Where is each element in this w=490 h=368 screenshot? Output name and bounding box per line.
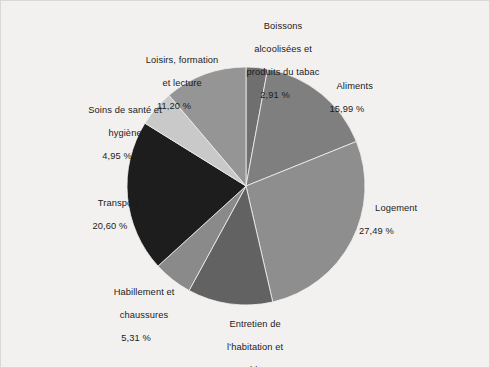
slice-label-habillement-line1: Habillement et (114, 287, 175, 297)
slice-percent-logement: 27,49 % (359, 226, 455, 238)
chart-area: Boissons alcoolisées et produits du taba… (1, 1, 489, 367)
slice-label-transport-line1: Transport (98, 198, 138, 208)
slice-label-boissons-line1: Boissons (264, 21, 303, 31)
slice-label-entretien: Entretien de l’habitation et ameublement… (191, 307, 303, 368)
slice-label-habillement: Habillement et chaussures 5,31 % (79, 275, 193, 368)
slice-label-loisirs-line1: Loisirs, formation (146, 55, 219, 65)
slice-label-transport: Transport 20,60 % (63, 186, 157, 256)
slice-label-entretien-line2: l’habitation et (227, 342, 283, 352)
slice-percent-soins: 4,95 % (59, 151, 175, 163)
slice-label-logement-line1: Logement (375, 203, 417, 213)
slice-percent-aliments: 15,99 % (301, 104, 393, 116)
slice-percent-transport: 20,60 % (63, 221, 157, 233)
slice-label-aliments: Aliments 15,99 % (301, 69, 393, 139)
slice-label-entretien-line1: Entretien de (229, 319, 280, 329)
slice-label-boissons-line2: alcoolisées et (254, 44, 312, 54)
slice-percent-loisirs: 11,20 % (117, 101, 231, 113)
slice-label-loisirs-line2: et lecture (162, 78, 201, 88)
slice-label-loisirs: Loisirs, formation et lecture 11,20 % (117, 43, 231, 136)
slice-label-logement: Logement 27,49 % (359, 191, 455, 261)
slice-label-habillement-line2: chaussures (120, 310, 169, 320)
pie-chart-figure: Boissons alcoolisées et produits du taba… (0, 0, 490, 368)
slice-percent-habillement: 5,31 % (79, 333, 193, 345)
slice-label-aliments-line1: Aliments (337, 81, 373, 91)
